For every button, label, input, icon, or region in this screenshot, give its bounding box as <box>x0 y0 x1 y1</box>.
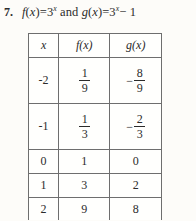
cell-gx: 2 <box>110 174 162 198</box>
cell-gx: 0 <box>110 150 162 174</box>
function-values-table: x f(x) g(x) -2 1 9 <box>28 33 162 220</box>
cell-fx-value: 3 <box>81 178 87 192</box>
f-equals-sign: = <box>40 5 47 19</box>
cell-x: -2 <box>29 58 59 104</box>
fraction-stack: 2 3 <box>134 113 145 140</box>
cell-x-value: 1 <box>41 178 47 192</box>
fraction: 1 9 <box>78 67 90 94</box>
cell-gx: − 2 3 <box>110 104 162 150</box>
fraction: 1 3 <box>78 113 90 140</box>
table-row: 2 9 8 <box>29 198 162 221</box>
cell-fx: 1 <box>59 150 110 174</box>
fraction: − 2 3 <box>126 113 145 140</box>
cell-gx: − 8 9 <box>110 58 162 104</box>
fraction-denominator: 3 <box>80 127 90 140</box>
cell-x: 1 <box>29 174 59 198</box>
cell-gx-value: 0 <box>133 154 139 168</box>
column-header-fx-label: f(x) <box>76 38 93 52</box>
fraction-denominator: 3 <box>135 127 145 140</box>
table-header-row: x f(x) g(x) <box>29 34 162 58</box>
fraction-numerator: 1 <box>80 113 90 126</box>
fraction-numerator: 1 <box>80 67 90 80</box>
column-header-gx: g(x) <box>110 34 162 58</box>
cell-fx: 9 <box>59 198 110 221</box>
fraction-denominator: 9 <box>80 81 90 94</box>
column-header-gx-label: g(x) <box>126 38 145 52</box>
cell-fx: 3 <box>59 174 110 198</box>
fraction: − 8 9 <box>126 67 145 94</box>
fraction-stack: 1 9 <box>79 67 90 94</box>
cell-x-value: 0 <box>41 154 47 168</box>
g-minus-one: − 1 <box>119 5 136 19</box>
column-header-fx: f(x) <box>59 34 110 58</box>
problem-header: 7. f(x)=3x and g(x)=3x− 1 <box>0 4 196 28</box>
cell-x: -1 <box>29 104 59 150</box>
fraction-sign: − <box>126 121 133 133</box>
cell-fx-value: 9 <box>81 202 87 216</box>
column-header-x-label: x <box>41 38 46 52</box>
cell-fx: 1 9 <box>59 58 110 104</box>
table-row: 0 1 0 <box>29 150 162 174</box>
column-header-x: x <box>29 34 59 58</box>
cell-x-value: -2 <box>39 73 49 87</box>
problem-statement: f(x)=3x and g(x)=3x− 1 <box>22 4 136 20</box>
fraction-stack: 1 3 <box>79 113 90 140</box>
fraction-stack: 8 9 <box>134 67 145 94</box>
conjunction-and: and <box>60 5 78 19</box>
table-row: 1 3 2 <box>29 174 162 198</box>
table-row: -1 1 3 − 2 3 <box>29 104 162 150</box>
cell-x-value: 2 <box>41 202 47 216</box>
table-row: -2 1 9 − 8 9 <box>29 58 162 104</box>
f-exponent: x <box>53 4 57 13</box>
cell-x: 2 <box>29 198 59 221</box>
fraction-numerator: 8 <box>135 67 145 80</box>
cell-fx-value: 1 <box>81 154 87 168</box>
fraction-denominator: 9 <box>135 81 145 94</box>
fraction-sign: − <box>126 75 133 87</box>
cell-gx-value: 2 <box>133 178 139 192</box>
cell-x: 0 <box>29 150 59 174</box>
cell-fx: 1 3 <box>59 104 110 150</box>
problem-number: 7. <box>0 4 22 20</box>
cell-x-value: -1 <box>39 119 49 133</box>
cell-gx: 8 <box>110 198 162 221</box>
cell-gx-value: 8 <box>133 202 139 216</box>
fraction-numerator: 2 <box>135 113 145 126</box>
